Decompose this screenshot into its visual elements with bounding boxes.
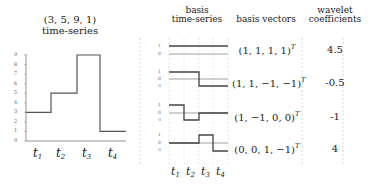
y-tick-9: 9 <box>14 51 17 57</box>
header-basis-ts-line2: time-series <box>162 14 232 24</box>
x-label-t1: t1 <box>33 148 42 163</box>
coefficient-3: -1 <box>304 111 366 122</box>
basis-row-1-plot <box>169 46 228 54</box>
basis-row-2-plot <box>169 72 228 86</box>
y-tick-7: 7 <box>14 70 17 76</box>
basis-vector-1: (1, 1, 1, 1)T <box>232 42 302 56</box>
y-tick-1: 1 <box>14 127 17 133</box>
y-tick-4: 4 <box>14 99 17 105</box>
coefficient-4: 4 <box>304 143 366 154</box>
basis-x-label-t2: t2 <box>186 166 195 181</box>
x-label-t3: t3 <box>82 148 91 163</box>
coefficient-2: -0.5 <box>304 77 366 88</box>
coefficient-1: 4.5 <box>304 44 366 55</box>
y-tick-5: 5 <box>14 89 17 95</box>
y-tick-2: 2 <box>14 118 17 124</box>
x-label-t2: t2 <box>56 148 65 163</box>
header-coeff-line2: coefficients <box>304 14 366 24</box>
y-tick-8: 8 <box>14 61 17 67</box>
basis-vector-4: (0, 0, 1, −1)T <box>232 141 302 155</box>
left-title-values: (3, 5, 9, 1) <box>20 14 120 25</box>
basis-vector-3: (1, −1, 0, 0)T <box>232 109 302 123</box>
x-label-t4: t4 <box>108 148 117 163</box>
basis-row-4-plot <box>169 135 228 151</box>
left-chart-axes <box>26 54 126 141</box>
y-tick-0: 0 <box>14 137 17 143</box>
y-tick-3: 3 <box>14 108 17 114</box>
time-series-step-line <box>26 55 126 131</box>
left-title-label: time-series <box>20 25 120 36</box>
header-basis-vectors: basis vectors <box>232 14 300 24</box>
basis-vector-2: (1, 1, −1, −1)T <box>232 75 302 89</box>
basis-x-label-t1: t1 <box>171 166 180 181</box>
basis-x-label-t4: t4 <box>216 166 225 181</box>
y-tick-6: 6 <box>14 80 17 86</box>
basis-x-label-t3: t3 <box>201 166 210 181</box>
basis-row-3-plot <box>169 105 228 120</box>
